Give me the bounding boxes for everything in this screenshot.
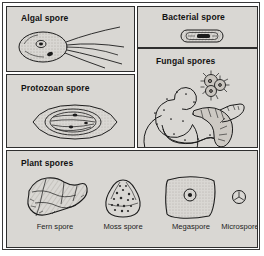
panel-title-algal-spore: Algal spore	[21, 13, 68, 23]
bacterial-spore-icon	[178, 27, 232, 45]
algal-spore-icon	[15, 24, 135, 70]
moss-spore-icon	[100, 177, 146, 219]
panel-title-protozoan-spore: Protozoan spore	[21, 83, 90, 93]
fern-spore-icon	[19, 173, 89, 219]
panel-protozoan-spore: Protozoan spore	[6, 74, 135, 148]
megaspore-icon	[163, 173, 219, 221]
plant-spore-label-fern: Fern spore	[13, 222, 97, 231]
plant-spore-label-micro: Microspore	[203, 222, 258, 231]
panel-algal-spore: Algal spore	[6, 6, 135, 72]
protozoan-spore-icon	[29, 99, 121, 145]
panel-title-fungal-spores: Fungal spores	[156, 56, 215, 66]
plant-spore-label-moss: Moss spore	[87, 222, 159, 231]
spore-types-figure: Algal spore	[0, 0, 264, 256]
panel-title-bacterial-spore: Bacterial spore	[162, 12, 225, 22]
microspore-icon	[229, 187, 249, 207]
fungal-spores-icon	[141, 69, 258, 147]
panel-title-plant-spores: Plant spores	[21, 158, 73, 168]
panel-plant-spores: Plant spores	[6, 150, 258, 248]
panel-bacterial-spore: Bacterial spore	[137, 6, 258, 48]
panel-fungal-spores: Fungal spores	[137, 48, 258, 148]
